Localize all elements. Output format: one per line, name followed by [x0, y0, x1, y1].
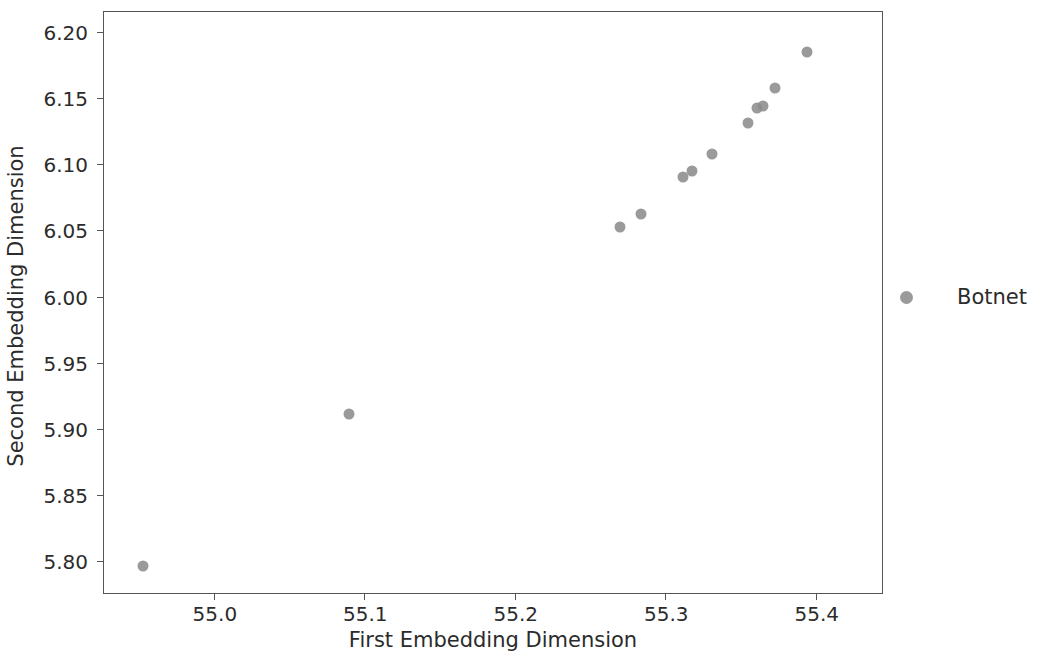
scatter-point	[138, 560, 149, 571]
scatter-point	[344, 408, 355, 419]
y-axis-tick-label: 5.90	[43, 420, 88, 440]
y-axis-tick-label: 5.95	[43, 354, 88, 374]
plot-data-area	[104, 12, 882, 593]
y-axis-tick: 6.15	[97, 98, 104, 99]
x-axis-tick: 55.1	[364, 593, 365, 600]
y-axis-tick: 5.85	[97, 495, 104, 496]
y-axis-tick-label: 6.00	[43, 288, 88, 308]
y-axis-tick-label: 5.80	[43, 552, 88, 572]
x-axis-tick: 55.3	[665, 593, 666, 600]
scatter-point	[687, 166, 698, 177]
x-axis-tick-label: 55.1	[343, 604, 388, 624]
scatter-point	[758, 100, 769, 111]
y-axis-tick: 5.90	[97, 429, 104, 430]
y-axis-tick-label: 6.10	[43, 155, 88, 175]
scatter-point	[706, 149, 717, 160]
y-axis-tick-label: 6.15	[43, 89, 88, 109]
y-axis-label: Second Embedding Dimension	[4, 15, 28, 598]
y-axis-tick: 5.95	[97, 363, 104, 364]
y-axis-tick: 6.05	[97, 230, 104, 231]
scatter-point	[615, 222, 626, 233]
y-axis-tick-label: 6.05	[43, 221, 88, 241]
y-axis-tick-label: 6.20	[43, 23, 88, 43]
y-axis-tick: 6.10	[97, 164, 104, 165]
scatter-point	[770, 83, 781, 94]
legend-marker-icon	[900, 291, 913, 304]
x-axis-tick: 55.4	[816, 593, 817, 600]
y-axis-tick: 6.20	[97, 32, 104, 33]
chart-legend: Botnet	[900, 285, 1027, 309]
plot-axes-frame: 5.805.855.905.956.006.056.106.156.2055.0…	[103, 11, 883, 594]
x-axis-tick: 55.0	[214, 593, 215, 600]
scatter-plot-figure: 5.805.855.905.956.006.056.106.156.2055.0…	[0, 0, 1047, 663]
y-axis-tick: 5.80	[97, 561, 104, 562]
y-axis-tick: 6.00	[97, 297, 104, 298]
x-axis-tick-label: 55.0	[193, 604, 238, 624]
legend-entry-label: Botnet	[957, 285, 1027, 309]
x-axis-tick-label: 55.4	[795, 604, 840, 624]
y-axis-tick-label: 5.85	[43, 486, 88, 506]
scatter-point	[636, 209, 647, 220]
x-axis-tick-label: 55.2	[494, 604, 539, 624]
x-axis-label: First Embedding Dimension	[103, 628, 883, 652]
x-axis-tick-label: 55.3	[644, 604, 689, 624]
x-axis-tick: 55.2	[515, 593, 516, 600]
scatter-point	[743, 118, 754, 129]
scatter-point	[801, 47, 812, 58]
